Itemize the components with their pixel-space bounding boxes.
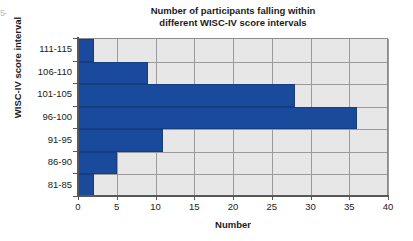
chart-title-line-2: different WISC-IV score intervals <box>88 17 378 29</box>
x-tick-label-40: 40 <box>373 201 403 212</box>
y-tick-mark <box>73 128 78 129</box>
x-tick-mark <box>311 196 312 200</box>
chart-figure: 5- Number of participants falling within… <box>0 0 413 241</box>
y-tick-label-86-90: 86-90 <box>26 156 72 167</box>
bar-106-110 <box>78 62 148 85</box>
x-tick-mark <box>233 196 234 200</box>
x-tick-mark <box>117 196 118 200</box>
x-tick-label-20: 20 <box>218 201 248 212</box>
x-tick-mark <box>194 196 195 200</box>
bar-86-90 <box>78 152 117 175</box>
gridline-horizontal <box>78 174 387 175</box>
y-tick-label-81-85: 81-85 <box>26 179 72 190</box>
y-tick-mark <box>73 61 78 62</box>
x-tick-label-5: 5 <box>102 201 132 212</box>
x-tick-mark <box>272 196 273 200</box>
bar-81-85 <box>78 174 94 197</box>
y-axis-title: WISC-IV score interval <box>12 13 23 123</box>
x-tick-mark <box>78 196 79 200</box>
plot-area <box>78 38 388 196</box>
gridline-horizontal <box>78 152 387 153</box>
y-tick-mark <box>73 83 78 84</box>
y-tick-mark <box>73 151 78 152</box>
y-tick-label-101-105: 101-105 <box>26 88 72 99</box>
x-tick-label-35: 35 <box>334 201 364 212</box>
y-tick-mark <box>73 196 78 197</box>
x-tick-label-25: 25 <box>257 201 287 212</box>
x-tick-label-30: 30 <box>296 201 326 212</box>
bar-96-100 <box>78 107 357 130</box>
y-tick-label-111-115: 111-115 <box>26 43 72 54</box>
y-axis-tick-labels: 111-115106-110101-10596-10091-9586-9081-… <box>24 38 72 196</box>
x-tick-mark <box>349 196 350 200</box>
y-tick-label-91-95: 91-95 <box>26 134 72 145</box>
bar-101-105 <box>78 84 295 107</box>
x-tick-label-10: 10 <box>141 201 171 212</box>
chart-title-line-1: Number of participants falling within <box>88 5 378 17</box>
chart-title: Number of participants falling within di… <box>88 5 378 29</box>
y-tick-mark <box>73 106 78 107</box>
x-tick-label-0: 0 <box>63 201 93 212</box>
bar-111-115 <box>78 39 94 62</box>
y-tick-label-106-110: 106-110 <box>26 66 72 77</box>
gridline-vertical <box>388 39 389 196</box>
bar-91-95 <box>78 129 163 152</box>
x-tick-mark <box>388 196 389 200</box>
x-tick-mark <box>156 196 157 200</box>
y-tick-mark <box>73 38 78 39</box>
x-axis-title: Number <box>78 219 388 230</box>
scan-edge-artifact: 5- <box>0 8 11 18</box>
y-tick-label-96-100: 96-100 <box>26 111 72 122</box>
x-tick-label-15: 15 <box>179 201 209 212</box>
y-tick-mark <box>73 173 78 174</box>
